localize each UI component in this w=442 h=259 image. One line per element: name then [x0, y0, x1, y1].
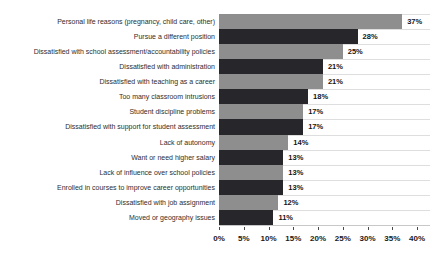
bar-row: Lack of autonomy14%	[0, 135, 442, 150]
bar	[219, 195, 278, 210]
bar-row: Dissatisfied with teaching as a career21…	[0, 74, 442, 89]
bar-track: 11%	[219, 210, 430, 225]
bar-track: 21%	[219, 74, 430, 89]
x-tick	[219, 227, 220, 230]
bar-track: 28%	[219, 29, 430, 44]
bar-row: Dissatisfied with support for student as…	[0, 119, 442, 134]
x-tick-label: 40%	[409, 234, 425, 243]
x-tick-label: 0%	[213, 234, 225, 243]
x-tick	[269, 227, 270, 230]
bar-row: Personal life reasons (pregnancy, child …	[0, 14, 442, 29]
category-label: Student discipline problems	[0, 104, 215, 119]
value-label: 28%	[363, 29, 378, 44]
x-tick	[244, 227, 245, 230]
bar-row: Pursue a different position28%	[0, 29, 442, 44]
x-axis-line	[219, 225, 430, 226]
value-label: 13%	[288, 165, 303, 180]
value-label: 21%	[328, 59, 343, 74]
x-tick-label: 30%	[359, 234, 375, 243]
value-label: 18%	[313, 89, 328, 104]
bar	[219, 74, 323, 89]
bar-track: 25%	[219, 44, 430, 59]
category-label: Dissatisfied with support for student as…	[0, 119, 215, 134]
x-tick-label: 35%	[384, 234, 400, 243]
bar-track: 13%	[219, 165, 430, 180]
x-tick-label: 5%	[238, 234, 250, 243]
bar-row: Dissatisfied with administration21%	[0, 59, 442, 74]
bar	[219, 210, 273, 225]
category-label: Dissatisfied with school assessment/acco…	[0, 44, 215, 59]
value-label: 14%	[293, 135, 308, 150]
x-tick-label: 15%	[285, 234, 301, 243]
bar-row: Want or need higher salary13%	[0, 150, 442, 165]
x-tick-label: 10%	[260, 234, 276, 243]
bar-row: Dissatisfied with job assignment12%	[0, 195, 442, 210]
bar-row: Student discipline problems17%	[0, 104, 442, 119]
value-label: 17%	[308, 104, 323, 119]
category-label: Dissatisfied with job assignment	[0, 195, 215, 210]
bar	[219, 119, 303, 134]
x-tick	[318, 227, 319, 230]
bar	[219, 180, 283, 195]
category-label: Too many classroom intrusions	[0, 89, 215, 104]
category-label: Moved or geography issues	[0, 210, 215, 225]
category-label: Lack of autonomy	[0, 135, 215, 150]
bar-track: 37%	[219, 14, 430, 29]
bar-track: 21%	[219, 59, 430, 74]
bar-row: Too many classroom intrusions18%	[0, 89, 442, 104]
bar-track: 17%	[219, 104, 430, 119]
value-label: 12%	[283, 195, 298, 210]
bar	[219, 29, 358, 44]
x-tick	[368, 227, 369, 230]
bar-track: 18%	[219, 89, 430, 104]
value-label: 11%	[278, 210, 293, 225]
bar-row: Moved or geography issues11%	[0, 210, 442, 225]
bar-row: Dissatisfied with school assessment/acco…	[0, 44, 442, 59]
bar	[219, 104, 303, 119]
category-label: Dissatisfied with administration	[0, 59, 215, 74]
bar	[219, 14, 402, 29]
bar-track: 17%	[219, 119, 430, 134]
value-label: 13%	[288, 180, 303, 195]
x-tick	[392, 227, 393, 230]
bar-row: Enrolled in courses to improve career op…	[0, 180, 442, 195]
x-tick-label: 25%	[335, 234, 351, 243]
value-label: 17%	[308, 119, 323, 134]
category-label: Personal life reasons (pregnancy, child …	[0, 14, 215, 29]
bar-chart: Personal life reasons (pregnancy, child …	[0, 0, 442, 259]
x-tick	[417, 227, 418, 230]
bar-track: 13%	[219, 150, 430, 165]
category-label: Lack of influence over school policies	[0, 165, 215, 180]
category-label: Enrolled in courses to improve career op…	[0, 180, 215, 195]
x-tick-label: 20%	[310, 234, 326, 243]
value-label: 21%	[328, 74, 343, 89]
bar-track: 12%	[219, 195, 430, 210]
bar	[219, 150, 283, 165]
bar	[219, 135, 288, 150]
category-label: Dissatisfied with teaching as a career	[0, 74, 215, 89]
bar	[219, 44, 343, 59]
bar-row: Lack of influence over school policies13…	[0, 165, 442, 180]
value-label: 37%	[407, 14, 422, 29]
category-label: Want or need higher salary	[0, 150, 215, 165]
category-label: Pursue a different position	[0, 29, 215, 44]
x-tick	[293, 227, 294, 230]
x-tick	[343, 227, 344, 230]
bar-track: 14%	[219, 135, 430, 150]
chart-rows: Personal life reasons (pregnancy, child …	[0, 14, 442, 226]
bar	[219, 165, 283, 180]
bar-track: 13%	[219, 180, 430, 195]
bar	[219, 59, 323, 74]
value-label: 25%	[348, 44, 363, 59]
value-label: 13%	[288, 150, 303, 165]
bar	[219, 89, 308, 104]
